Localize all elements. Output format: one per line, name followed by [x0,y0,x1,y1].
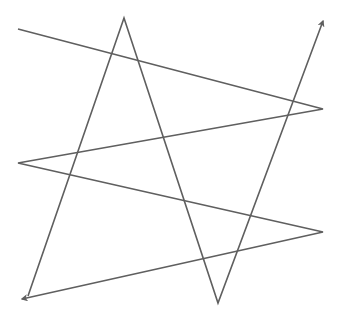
line-diagram [0,0,340,322]
polyline-zigzag [18,29,323,299]
paths-layer [18,18,323,303]
polyline-peaks [28,18,323,303]
